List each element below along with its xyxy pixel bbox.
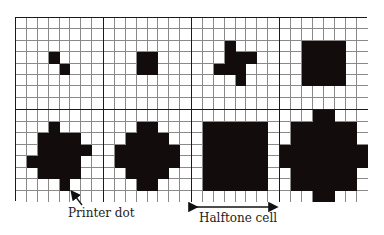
annotation-arrows bbox=[0, 0, 384, 235]
printer-dot-arrow bbox=[72, 192, 82, 205]
printer-dot-label: Printer dot bbox=[68, 206, 135, 220]
halftone-cell-label: Halftone cell bbox=[199, 211, 277, 225]
